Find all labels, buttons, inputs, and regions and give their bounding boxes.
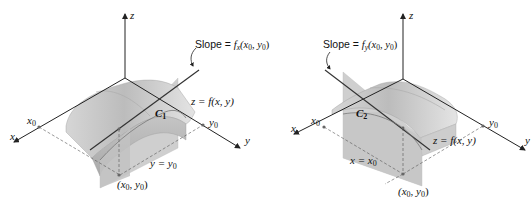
y0-label: y0 [488, 116, 498, 130]
x-axis-label: x [290, 122, 296, 134]
plane-label: x = x0 [349, 154, 377, 168]
point-label: (x0, y0) [117, 178, 148, 192]
y-axis-label: y [524, 134, 530, 146]
x0-label: x0 [26, 114, 36, 128]
slope-label: Slope = fx(x0, y0) [195, 38, 270, 52]
slope-pointer-arrow [191, 48, 196, 66]
point-label: (x0, y0) [398, 185, 429, 199]
plane-label: y = y0 [149, 157, 177, 171]
slope-pointer-arrow [327, 52, 330, 69]
point-x0y0 [401, 172, 404, 175]
z-axis-label: z [408, 9, 414, 21]
x-axis-label: x [9, 130, 15, 142]
figure-right: z x y x0 y0 Slope = fy(x0, y0) z = f(x, … [290, 9, 530, 199]
partial-derivatives-diagram: z x y x0 y0 Slope = fx(x0, y0) z = f(x, … [0, 0, 531, 202]
z-axis-label: z [129, 9, 135, 21]
point-x0 [322, 125, 325, 128]
y0-label: y0 [208, 116, 218, 130]
point-on-curve [118, 128, 121, 131]
surface-label: z = f(x, y) [432, 134, 476, 147]
figure-left: z x y x0 y0 Slope = fx(x0, y0) z = f(x, … [9, 9, 270, 192]
point-x0 [37, 125, 40, 128]
y-axis-label: y [244, 134, 250, 146]
surface-label: z = f(x, y) [190, 95, 234, 108]
point-y0 [201, 123, 204, 126]
point-y0 [481, 124, 484, 127]
x0-label: x0 [310, 114, 320, 128]
slope-label: Slope = fy(x0, y0) [323, 38, 398, 52]
point-x0y0 [117, 173, 120, 176]
point-on-curve [402, 127, 405, 130]
